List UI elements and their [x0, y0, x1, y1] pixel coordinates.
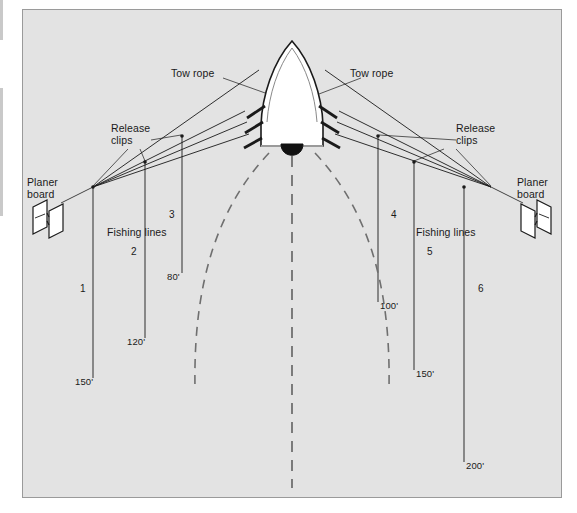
line-length-4: 100': [380, 300, 398, 311]
planer-board-left-icon: [33, 200, 63, 238]
line-number-3: 3: [169, 209, 175, 221]
rod-left-3: [244, 138, 262, 148]
line-number-1: 1: [80, 283, 86, 295]
line-number-5: 5: [427, 246, 433, 258]
figure-root: Tow rope Tow rope Release clips Release …: [0, 0, 577, 513]
leader-rc-right-c: [456, 149, 491, 186]
release-clip-6: [462, 185, 466, 189]
outboard-motor: [281, 144, 303, 155]
trolling-spread-illustration: [23, 10, 561, 497]
planer-board-right-panel-back: [537, 200, 551, 234]
line-length-6: 200': [466, 460, 484, 471]
boat-hull: [261, 41, 323, 146]
planer-board-left-panel-back: [33, 200, 47, 234]
label-fishing-lines-left: Fishing lines: [107, 226, 167, 238]
label-tow-rope-left: Tow rope: [171, 67, 214, 79]
line-length-5: 150': [416, 368, 434, 379]
line-length-2: 120': [127, 336, 145, 347]
label-release-clips-left: Release clips: [111, 122, 150, 147]
label-planer-board-left: Planer board: [27, 176, 58, 201]
page-edge-tick-mid: [0, 88, 3, 216]
label-tow-rope-right: Tow rope: [350, 67, 393, 79]
line-length-1: 150': [75, 376, 93, 387]
diagram-frame: Tow rope Tow rope Release clips Release …: [22, 9, 562, 498]
label-fishing-lines-right: Fishing lines: [416, 226, 476, 238]
leader-rc-right-a: [379, 135, 456, 140]
wake-left: [195, 153, 269, 388]
line-number-4: 4: [391, 209, 397, 221]
label-planer-board-right: Planer board: [517, 176, 548, 201]
line-number-2: 2: [131, 246, 137, 258]
planer-lead-left: [61, 187, 93, 203]
leader-rc-left-a: [93, 149, 128, 186]
leader-tow-rope-left: [223, 78, 268, 94]
planer-board-right-panel-front: [521, 204, 535, 238]
line-length-3: 80': [167, 271, 180, 282]
planer-board-left-panel-front: [49, 204, 63, 238]
release-clip-nodes-right: [376, 134, 466, 189]
line-number-6: 6: [478, 283, 484, 295]
rod-right-3: [322, 138, 340, 148]
label-release-clips-right: Release clips: [456, 122, 495, 147]
fishing-lines-right: [378, 136, 464, 462]
page-edge-tick-top: [0, 0, 3, 40]
planer-board-right-icon: [521, 200, 551, 238]
